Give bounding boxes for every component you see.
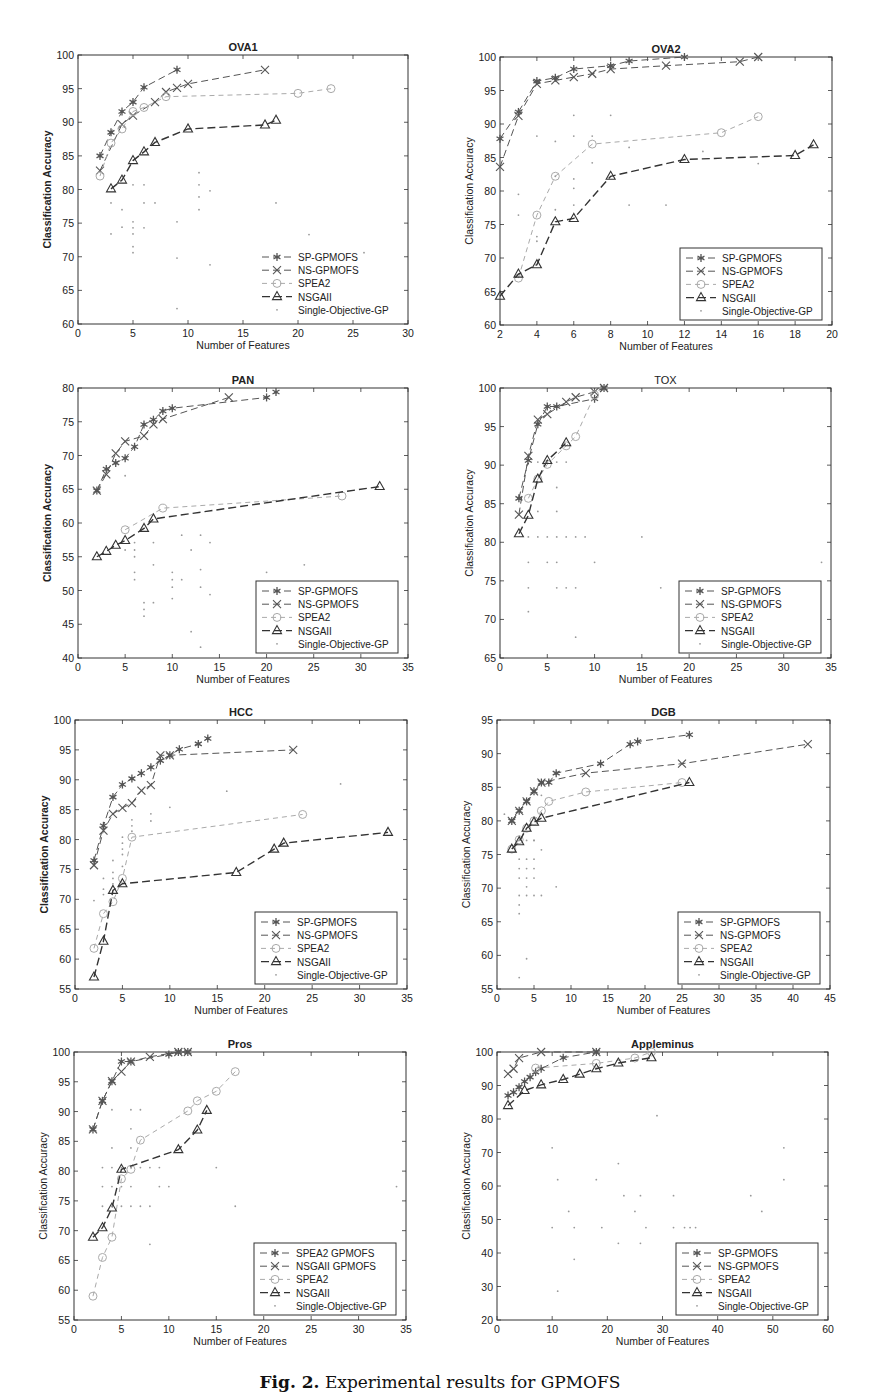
- dot-marker: [533, 858, 535, 860]
- subplot-pros: 05101520253035556065707580859095100ProsN…: [37, 1038, 412, 1347]
- marker-core: [159, 759, 162, 762]
- dot-marker: [573, 135, 575, 137]
- x-tick-label: 10: [163, 1323, 175, 1335]
- dot-marker: [546, 536, 548, 538]
- dot-marker: [103, 888, 105, 890]
- y-tick-label: 80: [481, 1113, 493, 1125]
- dot-marker: [555, 886, 557, 888]
- y-tick-label: 85: [484, 498, 496, 510]
- dot-marker: [134, 556, 136, 558]
- dot-marker: [518, 904, 520, 906]
- x-tick-label: 10: [565, 992, 577, 1004]
- dot-marker: [171, 579, 173, 581]
- legend-label: NSGAII: [297, 957, 331, 968]
- dot-marker: [171, 586, 173, 588]
- dot-marker: [200, 586, 202, 588]
- dot-marker: [121, 1205, 123, 1207]
- legend-label: SP-GPMOFS: [720, 917, 780, 928]
- series-line: [512, 744, 808, 821]
- subplot-ova1: 0510152025306065707580859095100OVA1Numbe…: [41, 41, 414, 351]
- series-line: [93, 1052, 188, 1129]
- dot-marker: [700, 310, 702, 312]
- marker-core: [120, 1060, 123, 1063]
- dot-marker: [181, 534, 183, 536]
- circle-marker: [717, 129, 725, 137]
- dot-marker: [573, 114, 575, 116]
- x-tick-label: 18: [789, 328, 801, 340]
- x-tick-label: 25: [731, 661, 743, 673]
- asterisk-marker: [169, 404, 176, 412]
- marker-core: [161, 409, 164, 412]
- dot-marker: [527, 587, 529, 589]
- marker-core: [273, 1251, 276, 1254]
- series-ns-gpmofs: [508, 740, 812, 825]
- dot-marker: [536, 240, 538, 242]
- x-tick-label: 15: [602, 992, 614, 1004]
- dot-marker: [565, 461, 567, 463]
- y-tick-label: 65: [59, 923, 71, 935]
- dot-marker: [565, 536, 567, 538]
- y-tick-label: 60: [59, 953, 71, 965]
- dot-marker: [143, 227, 145, 229]
- dot-marker: [518, 895, 520, 897]
- legend-label: NSGAII: [718, 1288, 752, 1299]
- y-tick-label: 100: [478, 51, 496, 63]
- y-tick-label: 65: [58, 1254, 70, 1266]
- dot-marker: [533, 868, 535, 870]
- marker-core: [688, 733, 691, 736]
- dot-marker: [143, 184, 145, 186]
- legend-label: NSGAII: [296, 1288, 330, 1299]
- y-axis-label: Classification Accuracy: [460, 800, 472, 908]
- x-tick-label: 25: [306, 992, 318, 1004]
- x-marker: [173, 84, 181, 92]
- marker-core: [562, 1056, 565, 1059]
- dot-marker: [112, 860, 114, 862]
- dot-marker: [102, 1205, 104, 1207]
- marker-core: [265, 396, 268, 399]
- x-marker: [121, 437, 129, 445]
- dot-marker: [699, 643, 701, 645]
- dot-marker: [554, 141, 556, 143]
- subplot-hcc: 05101520253035556065707580859095100HCCNu…: [38, 706, 413, 1016]
- dot-marker: [518, 193, 520, 195]
- dot-marker: [660, 587, 662, 589]
- triangle-marker: [680, 155, 689, 163]
- legend-label: NSGAII: [298, 626, 332, 637]
- y-tick-label: 75: [62, 416, 74, 428]
- dot-marker: [518, 839, 520, 841]
- marker-core: [523, 1080, 526, 1083]
- x-tick-label: 15: [211, 992, 223, 1004]
- legend-label: Single-Objective-GP: [296, 1301, 387, 1312]
- chart-title: HCC: [229, 706, 253, 718]
- legend: SP-GPMOFSNS-GPMOFSSPEA2NSGAIISingle-Obje…: [679, 581, 821, 653]
- marker-core: [121, 783, 124, 786]
- x-tick-label: 20: [292, 327, 304, 339]
- dot-marker: [110, 202, 112, 204]
- y-tick-label: 55: [59, 983, 71, 995]
- marker-core: [517, 1086, 520, 1089]
- dot-marker: [556, 587, 558, 589]
- dot-marker: [190, 631, 192, 633]
- legend: SP-GPMOFSNS-GPMOFSSPEA2NSGAIISingle-Obje…: [676, 1243, 818, 1315]
- circle-marker: [572, 433, 580, 441]
- asterisk-marker: [686, 731, 693, 739]
- dot-marker: [573, 187, 575, 189]
- dot-marker: [396, 1186, 398, 1188]
- dot-marker: [568, 1211, 570, 1213]
- y-tick-label: 65: [62, 284, 74, 296]
- dot-marker: [689, 1227, 691, 1229]
- dot-marker: [209, 594, 211, 596]
- dot-marker: [121, 226, 123, 228]
- chart-title: Pros: [228, 1038, 252, 1050]
- dot-marker: [363, 252, 365, 254]
- dot-marker: [546, 561, 548, 563]
- asterisk-marker: [138, 769, 145, 777]
- legend-label: Single-Objective-GP: [298, 305, 389, 316]
- y-tick-label: 75: [59, 863, 71, 875]
- dot-marker: [640, 1242, 642, 1244]
- x-tick-label: 50: [767, 1323, 779, 1335]
- dot-marker: [131, 830, 133, 832]
- dot-marker: [132, 221, 134, 223]
- y-tick-label: 75: [484, 575, 496, 587]
- dot-marker: [181, 579, 183, 581]
